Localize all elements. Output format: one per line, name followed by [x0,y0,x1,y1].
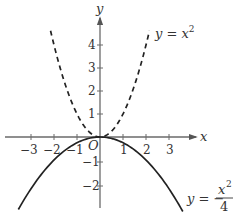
label-numerator: x [218,182,226,197]
label-exponent: 2 [189,24,195,34]
label-y-equals-neg-x-squared-over-4: y = − x 2 4 [186,179,233,214]
origin-label: O [88,138,99,153]
x-axis-label: x [200,129,208,144]
label-numerator-exponent: 2 [226,179,232,189]
y-tick-label: 4 [88,38,96,52]
y-axis-label: y [95,1,104,16]
y-tick-label: −1 [82,155,100,169]
label-y-equals-x-squared: y = x2 [154,24,195,41]
x-tick-label: −3 [20,143,38,157]
x-tick-label: 2 [143,143,151,157]
label-lhs: y = x [154,26,190,41]
y-tick-label: 2 [88,84,96,98]
y-tick-label: −2 [82,179,100,193]
y-tick-label: 1 [88,107,96,121]
x-tick-label: 3 [166,143,174,157]
label-denominator: 4 [220,199,228,214]
parabola-diagram: x y O −3 −2 −1 1 2 3 4 3 2 1 −1 −2 y [0,0,235,215]
x-tick-label: −2 [43,143,61,157]
y-tick-label: 3 [88,61,96,75]
